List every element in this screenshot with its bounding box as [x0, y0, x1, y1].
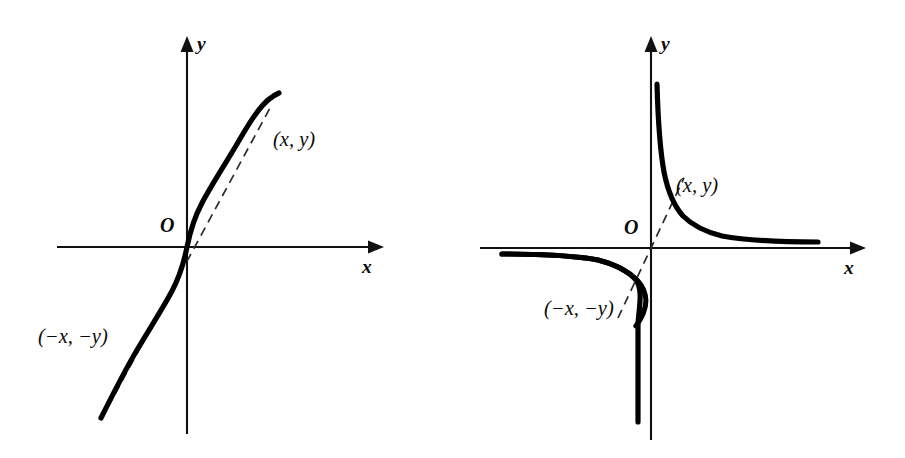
- right-x-axis-arrowhead: [850, 242, 866, 255]
- left-point-positive-label: (x, y): [273, 128, 315, 151]
- left-point-negative-label: (−x, −y): [38, 325, 108, 348]
- left-x-axis-label: x: [361, 256, 372, 277]
- right-origin-label: O: [624, 216, 638, 238]
- right-point-positive-label: (x, y): [676, 174, 718, 197]
- figure-root: O x y (x, y) (−x, −y) O x y (x, y) (−x, …: [0, 0, 905, 458]
- panel-left-cubic: O x y (x, y) (−x, −y): [0, 0, 452, 458]
- left-y-axis-label: y: [195, 33, 206, 54]
- left-y-axis-arrowhead: [181, 36, 194, 52]
- left-x-axis-arrowhead: [368, 241, 384, 254]
- right-hyperbola-branch-lower: [502, 254, 640, 422]
- right-hyperbola-branch-upper: [657, 84, 818, 242]
- right-point-negative-label: (−x, −y): [544, 297, 614, 320]
- right-x-axis-label: x: [843, 257, 854, 278]
- right-y-axis-label: y: [659, 33, 670, 54]
- right-y-axis-arrowhead: [645, 36, 658, 52]
- panel-right-hyperbola: O x y (x, y) (−x, −y): [452, 0, 905, 458]
- left-origin-label: O: [160, 214, 174, 236]
